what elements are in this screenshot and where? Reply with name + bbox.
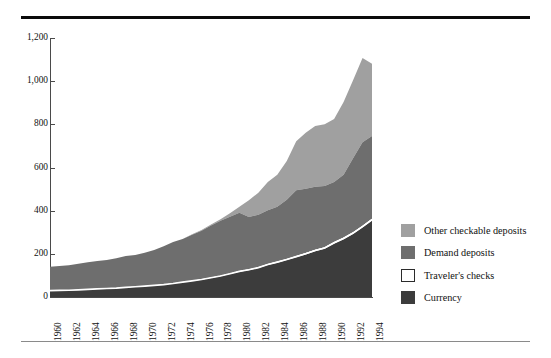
x-axis-tick-label: 1990 (338, 322, 347, 341)
y-axis-tick-labels: 02004006008001,0001,200 (0, 0, 48, 358)
top-rule-divider (21, 16, 530, 19)
x-axis-line (50, 297, 373, 298)
x-axis-tick-labels: 1960196219641966196819701972197419761978… (50, 299, 380, 344)
x-axis-tick-label: 1960 (54, 322, 63, 341)
x-axis-tick-label: 1964 (92, 322, 101, 341)
x-axis-tick-label: 1980 (243, 322, 252, 341)
y-axis-tick-label: 200 (2, 249, 48, 258)
legend-item: Demand deposits (401, 242, 546, 265)
legend-item-label: Currency (424, 292, 462, 303)
x-axis-tick-label: 1988 (319, 322, 328, 341)
x-axis-tick-label: 1986 (300, 322, 309, 341)
y-axis-tick-label: 600 (2, 163, 48, 172)
x-axis-tick-label: 1984 (281, 322, 290, 341)
figure-container: 02004006008001,0001,200 1960196219641966… (0, 0, 551, 358)
x-axis-tick-label: 1968 (130, 322, 139, 341)
legend-item: Traveler's checks (401, 264, 546, 287)
y-axis-tick-label: 400 (2, 206, 48, 215)
y-axis-tick-label: 1,200 (2, 33, 48, 42)
x-axis-tick-label: 1982 (262, 322, 271, 341)
x-axis-tick-label: 1972 (168, 322, 177, 341)
legend-swatch-icon (401, 269, 415, 282)
x-axis-tick-label: 1966 (111, 322, 120, 341)
x-axis-tick-label: 1992 (357, 322, 366, 341)
legend-item: Currency (401, 287, 546, 310)
stacked-area-svg (50, 38, 372, 297)
stacked-area-plot (50, 38, 372, 297)
legend-item: Other checkable deposits (401, 219, 546, 242)
x-axis-tick-label: 1978 (224, 322, 233, 341)
legend-swatch-icon (401, 246, 415, 259)
y-axis-tick-label: 800 (2, 119, 48, 128)
y-axis-tick-label: 1,000 (2, 76, 48, 85)
legend-item-label: Demand deposits (424, 247, 494, 258)
x-axis-tick-label: 1974 (187, 322, 196, 341)
y-axis-tick-label: 0 (2, 292, 48, 301)
x-axis-tick-label: 1976 (206, 322, 215, 341)
legend-item-label: Other checkable deposits (424, 225, 526, 236)
chart-legend: Other checkable depositsDemand depositsT… (401, 219, 546, 309)
x-axis-tick-label: 1994 (376, 322, 385, 341)
legend-swatch-icon (401, 291, 415, 304)
x-axis-tick-label: 1962 (73, 322, 82, 341)
legend-swatch-icon (401, 224, 415, 237)
legend-item-label: Traveler's checks (424, 270, 494, 281)
x-axis-tick-label: 1970 (149, 322, 158, 341)
